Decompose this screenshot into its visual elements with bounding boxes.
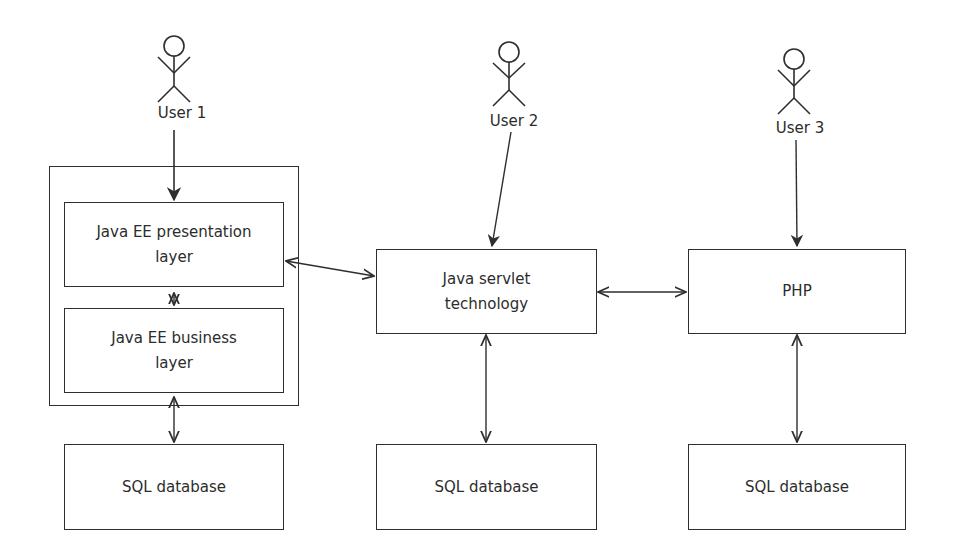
edge-user2-servlet: [492, 132, 511, 246]
node-php: PHP: [688, 249, 906, 334]
node-label-line1: SQL database: [122, 475, 226, 500]
node-label-line1: SQL database: [745, 475, 849, 500]
actor-user1-label: User 1: [158, 104, 207, 122]
node-label-line1: Java EE presentation: [96, 220, 251, 245]
node-label-line2: layer: [96, 245, 251, 270]
node-sql3: SQL database: [688, 444, 906, 530]
node-servlet: Java servlet technology: [376, 249, 597, 334]
architecture-diagram: User 1 User 2 User 3 Java EE presentatio…: [0, 0, 953, 555]
actor-user1-icon: [158, 36, 190, 102]
node-label-line1: Java EE business: [111, 326, 237, 351]
node-label-line2: technology: [443, 292, 531, 317]
actor-user3-label: User 3: [776, 119, 825, 137]
node-sql2: SQL database: [376, 444, 597, 530]
actor-user2-label: User 2: [490, 112, 539, 130]
edge-presentation-servlet: [286, 261, 374, 276]
node-label-line1: SQL database: [435, 475, 539, 500]
node-javaee-presentation: Java EE presentation layer: [64, 202, 284, 287]
node-label-line1: PHP: [782, 279, 811, 304]
node-sql1: SQL database: [64, 444, 284, 530]
node-label-line2: layer: [111, 351, 237, 376]
node-javaee-business: Java EE business layer: [64, 308, 284, 393]
actor-user2-icon: [493, 42, 525, 106]
edge-user3-php: [796, 140, 797, 246]
actor-user3-icon: [778, 49, 810, 114]
node-label-line1: Java servlet: [443, 267, 531, 292]
